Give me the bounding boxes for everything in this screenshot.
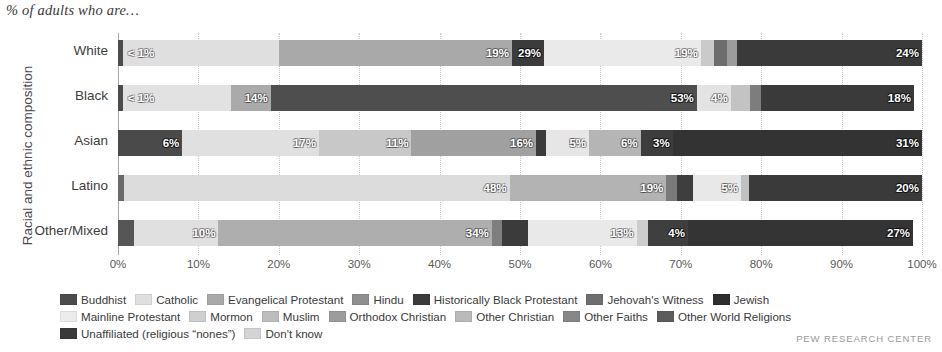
segment-value-label: 4% (711, 92, 728, 104)
legend-item[interactable]: Catholic (135, 292, 198, 307)
bar-segment[interactable]: 29% (512, 40, 544, 66)
bar-segment[interactable]: 5% (546, 130, 589, 156)
segment-value-label: < 1% (128, 92, 155, 104)
legend-item[interactable]: Other World Religions (657, 309, 791, 324)
segment-value-label: 19% (640, 182, 663, 194)
x-tick-label: 70% (669, 258, 692, 270)
segment-value-label: 20% (896, 182, 919, 194)
bar-row: Black< 1%14%53%4%18% (118, 85, 922, 111)
legend-swatch-icon (563, 311, 580, 322)
bar-segment[interactable] (666, 175, 676, 201)
legend-label: Buddhist (81, 292, 126, 307)
bar-segment[interactable]: 11% (319, 130, 411, 156)
bar-segment[interactable]: 3% (641, 130, 673, 156)
bar-segment[interactable] (701, 40, 714, 66)
chart-caption: % of adults who are… (6, 2, 139, 19)
source-credit: PEW RESEARCH CENTER (796, 333, 932, 344)
bar-segment[interactable]: 19% (510, 175, 667, 201)
segment-value-label: 11% (386, 137, 408, 149)
segment-value-label: 5% (569, 137, 586, 149)
x-axis: 0%10%20%30%40%50%60%70%80%90%100% (118, 258, 922, 276)
x-tick-label: 20% (267, 258, 290, 270)
legend-item[interactable]: Evangelical Protestant (207, 292, 343, 307)
segment-value-label: < 1% (128, 47, 155, 59)
legend-item[interactable]: Mainline Protestant (60, 309, 180, 324)
legend-label: Don't know (265, 326, 322, 341)
row-label-latino: Latino (71, 178, 108, 193)
legend-item[interactable]: Muslim (262, 309, 320, 324)
bar-segment[interactable]: 6% (589, 130, 640, 156)
bar-segment[interactable] (502, 220, 528, 246)
bar-row: Asian6%17%11%16%5%6%3%31% (118, 130, 922, 156)
bar-segment[interactable]: 27% (688, 220, 913, 246)
legend-item[interactable]: Unaffiliated (religious “nones”) (60, 326, 235, 341)
bar-segment[interactable]: 48% (124, 175, 510, 201)
y-axis-title: Racial and ethnic composition (20, 41, 35, 271)
legend-item[interactable]: Don't know (244, 326, 322, 341)
segment-value-label: 31% (896, 137, 919, 149)
legend-label: Unaffiliated (religious “nones”) (81, 326, 235, 341)
bar-segment[interactable] (731, 85, 750, 111)
bar-segment[interactable]: 53% (271, 85, 697, 111)
bar-segment[interactable]: < 1% (123, 40, 279, 66)
legend-swatch-icon (713, 294, 730, 305)
bar-segment[interactable]: 18% (761, 85, 914, 111)
legend-label: Historically Black Protestant (434, 292, 578, 307)
segment-value-label: 17% (293, 137, 316, 149)
bar-segment[interactable]: 17% (182, 130, 319, 156)
legend-label: Jehovah's Witness (607, 292, 703, 307)
bar-segment[interactable] (677, 175, 693, 201)
bar-segment[interactable]: 14% (231, 85, 271, 111)
x-tick-label: 60% (589, 258, 612, 270)
segment-value-label: 19% (675, 47, 698, 59)
segment-value-label: 10% (192, 227, 215, 239)
bar-segment[interactable]: 4% (697, 85, 731, 111)
bar-segment[interactable]: 34% (218, 220, 491, 246)
legend-label: Hindu (373, 292, 403, 307)
x-tick-label: 30% (348, 258, 371, 270)
bar-segment[interactable] (492, 220, 502, 246)
bar-segment[interactable] (637, 220, 648, 246)
segment-value-label: 27% (887, 227, 910, 239)
bar-segment[interactable]: 10% (134, 220, 218, 246)
legend-item[interactable]: Orthodox Christian (329, 309, 447, 324)
bar-segment[interactable] (118, 220, 134, 246)
bar-segment[interactable]: 19% (544, 40, 701, 66)
bar-segment[interactable] (727, 40, 737, 66)
segment-value-label: 14% (245, 92, 268, 104)
legend-item[interactable]: Buddhist (60, 292, 126, 307)
bar-segment[interactable] (750, 85, 761, 111)
bar-segment[interactable]: 16% (411, 130, 536, 156)
bar-segment[interactable]: 19% (279, 40, 512, 66)
legend-row: Mainline ProtestantMormonMuslimOrthodox … (60, 309, 930, 324)
x-tick-label: 10% (187, 258, 210, 270)
legend-label: Other Faiths (584, 309, 648, 324)
legend-item[interactable]: Other Christian (455, 309, 554, 324)
bar-segment[interactable]: 6% (118, 130, 182, 156)
legend-swatch-icon (657, 311, 674, 322)
legend-item[interactable]: Hindu (352, 292, 403, 307)
segment-value-label: 48% (484, 182, 507, 194)
bar-segment[interactable]: 24% (737, 40, 922, 66)
legend-item[interactable]: Jewish (713, 292, 769, 307)
bar-row: Latino48%19%5%20% (118, 175, 922, 201)
legend-label: Other World Religions (678, 309, 791, 324)
legend-item[interactable]: Jehovah's Witness (586, 292, 703, 307)
bar-segment[interactable]: 4% (648, 220, 688, 246)
bar-segment[interactable] (714, 40, 727, 66)
bar-segment[interactable]: 5% (693, 175, 741, 201)
legend-item[interactable]: Historically Black Protestant (413, 292, 578, 307)
legend-item[interactable]: Other Faiths (563, 309, 648, 324)
segment-value-label: 5% (721, 182, 738, 194)
segment-value-label: 24% (896, 47, 919, 59)
legend-swatch-icon (207, 294, 224, 305)
bar-segment[interactable] (536, 130, 546, 156)
bar-segment[interactable]: 13% (528, 220, 637, 246)
bar-segment[interactable]: < 1% (123, 85, 231, 111)
bar-segment[interactable]: 20% (749, 175, 922, 201)
bar-segment[interactable] (741, 175, 749, 201)
legend-item[interactable]: Mormon (189, 309, 253, 324)
legend-swatch-icon (244, 328, 261, 339)
segment-value-label: 6% (163, 137, 180, 149)
bar-segment[interactable]: 31% (673, 130, 922, 156)
